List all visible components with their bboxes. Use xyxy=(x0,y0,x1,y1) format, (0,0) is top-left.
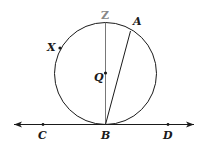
label-c: C xyxy=(38,129,47,142)
label-b: B xyxy=(100,129,110,142)
point-q xyxy=(104,71,107,74)
chord-ab xyxy=(106,31,131,125)
label-x: X xyxy=(46,41,56,54)
point-c xyxy=(42,123,45,126)
label-a: A xyxy=(132,15,142,28)
point-x xyxy=(58,46,61,49)
label-z: Z xyxy=(101,9,109,22)
geometry-diagram: Z A X Q B C D xyxy=(0,0,203,149)
point-d xyxy=(167,123,170,126)
label-d: D xyxy=(162,129,173,142)
label-q: Q xyxy=(94,71,104,84)
